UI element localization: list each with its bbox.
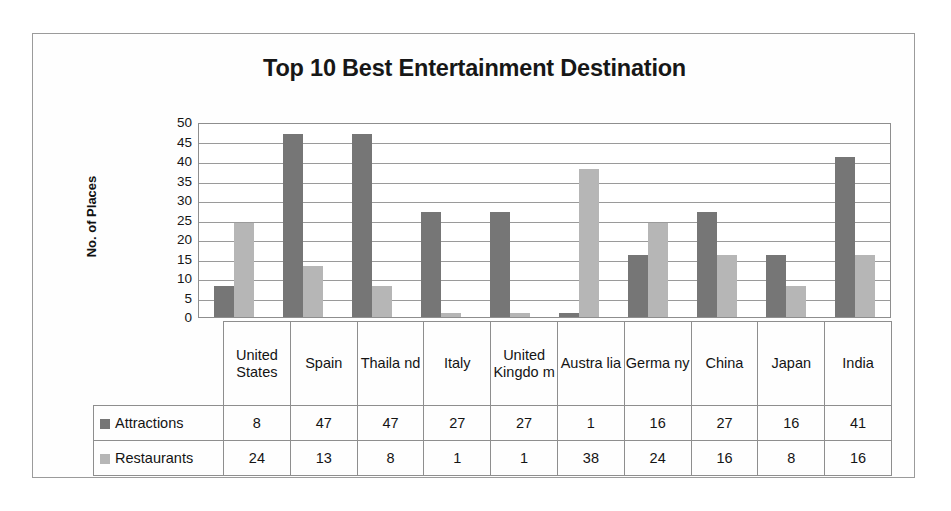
bar-restaurants — [303, 266, 323, 317]
table-header-cell: Germa ny — [624, 322, 691, 406]
y-axis-tick-label: 20 — [160, 233, 192, 247]
bar-restaurants — [234, 223, 254, 317]
bar-attractions — [766, 255, 786, 317]
bar-attractions — [214, 286, 234, 317]
table-header-cell: Austra lia — [557, 322, 624, 406]
table-cell: 8 — [224, 406, 291, 441]
y-axis-tick-label: 5 — [160, 292, 192, 306]
bar-attractions — [352, 134, 372, 317]
table-cell: 24 — [224, 441, 291, 476]
table-cell: 24 — [624, 441, 691, 476]
legend-item-restaurants: Restaurants — [94, 441, 224, 476]
y-axis-tick-labels: 50454035302520151050 — [160, 123, 192, 318]
y-axis-tick-label: 25 — [160, 214, 192, 228]
y-axis-tick-label: 30 — [160, 194, 192, 208]
data-table: United StatesSpainThaila ndItalyUnited K… — [93, 321, 892, 476]
bar-group — [752, 124, 821, 317]
table-row: Restaurants2413811382416816 — [94, 441, 892, 476]
bars-layer — [199, 124, 890, 317]
y-axis-tick-label: 15 — [160, 253, 192, 267]
table-cell: 41 — [825, 406, 892, 441]
legend-label: Restaurants — [115, 450, 193, 466]
bar-restaurants — [648, 223, 668, 317]
table-cell: 27 — [424, 406, 491, 441]
table-cell: 8 — [357, 441, 424, 476]
table-cell: 38 — [557, 441, 624, 476]
y-axis-tick-label: 10 — [160, 272, 192, 286]
chart-title: Top 10 Best Entertainment Destination — [33, 55, 916, 82]
bar-group — [821, 124, 890, 317]
table-cell: 1 — [491, 441, 558, 476]
table-header-cell: China — [691, 322, 758, 406]
bar-restaurants — [786, 286, 806, 317]
table-cell: 16 — [691, 441, 758, 476]
bar-restaurants — [579, 169, 599, 317]
legend-swatch-icon — [100, 454, 110, 464]
table-row: Attractions847472727116271641 — [94, 406, 892, 441]
bar-attractions — [490, 212, 510, 317]
y-axis-tick-label: 45 — [160, 136, 192, 150]
bar-group — [614, 124, 683, 317]
bar-group — [337, 124, 406, 317]
bar-attractions — [283, 134, 303, 317]
chart-frame: Top 10 Best Entertainment Destination No… — [32, 33, 915, 478]
bar-group — [544, 124, 613, 317]
bar-group — [683, 124, 752, 317]
table-cell: 16 — [758, 406, 825, 441]
table-header-cell: United Kingdo m — [491, 322, 558, 406]
bar-attractions — [559, 313, 579, 317]
table-cell: 27 — [491, 406, 558, 441]
table-cell: 8 — [758, 441, 825, 476]
legend-swatch-icon — [100, 419, 110, 429]
table-header-row: United StatesSpainThaila ndItalyUnited K… — [94, 322, 892, 406]
y-axis-tick-label: 50 — [160, 116, 192, 130]
bar-attractions — [697, 212, 717, 317]
plot-area — [198, 123, 891, 318]
table-cell: 1 — [424, 441, 491, 476]
table-header-cell: Italy — [424, 322, 491, 406]
y-axis-tick-label: 40 — [160, 155, 192, 169]
table-header-cell: Thaila nd — [357, 322, 424, 406]
bar-group — [475, 124, 544, 317]
y-axis-tick-label: 35 — [160, 175, 192, 189]
y-axis-title: No. of Places — [84, 147, 99, 287]
bar-restaurants — [717, 255, 737, 317]
legend-item-attractions: Attractions — [94, 406, 224, 441]
table-corner-cell — [94, 322, 224, 406]
table-header-cell: United States — [224, 322, 291, 406]
bar-group — [406, 124, 475, 317]
table-cell: 13 — [290, 441, 357, 476]
table-cell: 47 — [290, 406, 357, 441]
bar-attractions — [835, 157, 855, 317]
legend-label: Attractions — [115, 415, 184, 431]
table-cell: 1 — [557, 406, 624, 441]
bar-restaurants — [855, 255, 875, 317]
table-header-cell: India — [825, 322, 892, 406]
bar-restaurants — [441, 313, 461, 317]
table-cell: 16 — [624, 406, 691, 441]
table-cell: 16 — [825, 441, 892, 476]
bar-restaurants — [372, 286, 392, 317]
table-cell: 47 — [357, 406, 424, 441]
bar-group — [199, 124, 268, 317]
bar-restaurants — [510, 313, 530, 317]
bar-attractions — [628, 255, 648, 317]
table-cell: 27 — [691, 406, 758, 441]
table-header-cell: Spain — [290, 322, 357, 406]
plot-wrapper: 50454035302520151050 — [198, 123, 891, 318]
bar-group — [268, 124, 337, 317]
bar-attractions — [421, 212, 441, 317]
table-header-cell: Japan — [758, 322, 825, 406]
